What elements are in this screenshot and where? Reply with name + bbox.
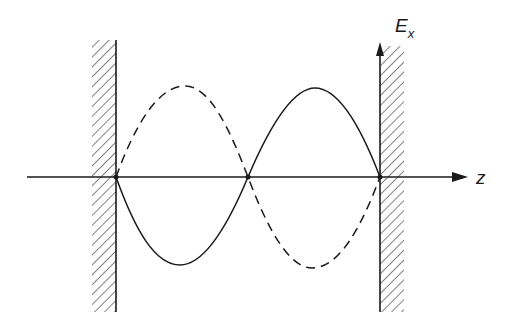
ex-axis-label: Ex bbox=[395, 15, 415, 41]
left-wall-hatching bbox=[92, 40, 116, 312]
node-left bbox=[114, 175, 119, 180]
standing-wave-diagram: Ex z bbox=[0, 0, 509, 322]
node-right bbox=[378, 175, 383, 180]
z-axis-label: z bbox=[475, 167, 486, 188]
left-wall bbox=[92, 40, 116, 312]
right-wall bbox=[380, 46, 404, 312]
node-middle bbox=[246, 175, 251, 180]
z-axis-arrowhead-icon bbox=[452, 172, 468, 182]
right-wall-hatching bbox=[380, 46, 404, 312]
